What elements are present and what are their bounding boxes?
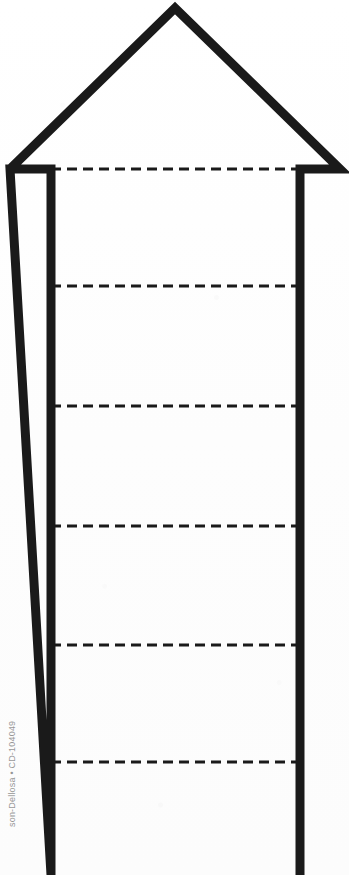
dashed-segmentation-lines	[51, 169, 300, 762]
arrow-outline-path	[10, 8, 340, 875]
arrow-figure	[0, 0, 349, 875]
worksheet-page: son-Dellosa • CD-104049	[0, 0, 349, 875]
